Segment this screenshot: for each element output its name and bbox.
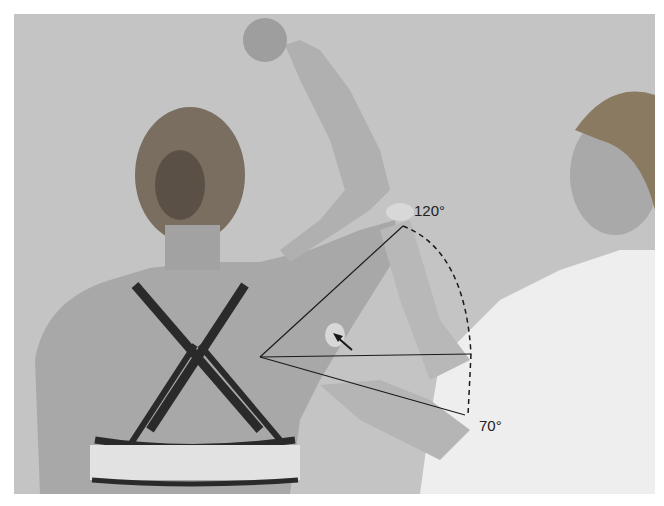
angle-label-70: 70°: [479, 417, 502, 434]
patient-fist: [243, 18, 287, 62]
angle-label-120: 120°: [414, 202, 445, 219]
photo: 120° 70°: [14, 14, 655, 494]
scene-illustration: [14, 14, 655, 494]
